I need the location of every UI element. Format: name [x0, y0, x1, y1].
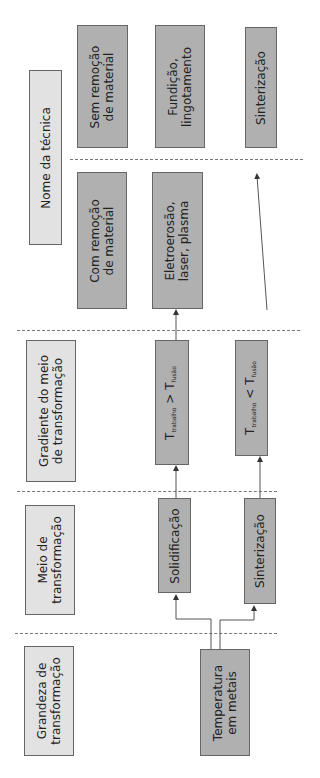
- header-label-line1: Grandeza de: [35, 657, 49, 744]
- t-symbol: T: [243, 428, 257, 435]
- box-sinterizacao-technique: Sinterização: [245, 27, 277, 148]
- box-com-remocao: Com remoçãode material: [77, 172, 127, 309]
- box-label-line2: laser, plasma: [178, 200, 192, 280]
- box-label-line2: de material: [102, 199, 116, 283]
- box-label-line2: de material: [103, 45, 117, 128]
- t-symbol: T: [243, 377, 257, 384]
- header-medium: Meio detransformação: [25, 505, 75, 615]
- box-label-line1: Fundição,: [166, 46, 180, 126]
- operator: <: [243, 389, 257, 399]
- header-label-line2: de transformação: [51, 355, 65, 467]
- header-gradient: Gradiente do meiode transformação: [26, 340, 76, 482]
- box-label-line1: Com remoção: [88, 199, 102, 283]
- box-label-line1: Sem remoção: [89, 45, 103, 128]
- box-label-line1: Temperatura: [211, 664, 225, 740]
- box-label: Sinterização: [253, 514, 267, 588]
- header-label-line1: Gradiente do meio: [37, 355, 51, 467]
- box-t-greater: Ttrabalho > Tfusão: [155, 340, 189, 465]
- subscript: trabalho: [250, 402, 257, 427]
- box-label: Sinterização: [254, 51, 268, 125]
- box-label: Solidificação: [168, 508, 182, 583]
- header-label-line2: transformação: [50, 516, 64, 603]
- box-solidificacao: Solidificação: [158, 498, 191, 593]
- header-label-line1: Meio de: [36, 516, 50, 603]
- header-technique-name: Nome da técnica: [29, 70, 62, 245]
- t-symbol: T: [163, 382, 177, 389]
- box-fundicao: Fundição,lingotamento: [155, 25, 205, 148]
- subscript: trabalho: [170, 407, 177, 432]
- box-label-line1: Eletroerosão,: [164, 200, 178, 280]
- header-technique-name-label: Nome da técnica: [39, 107, 53, 209]
- box-sem-remocao: Sem remoçãode material: [77, 25, 128, 148]
- box-eletroerosao: Eletroerosão,laser, plasma: [152, 172, 203, 309]
- header-magnitude: Grandeza detransformação: [24, 646, 74, 756]
- box-label-line2: em metais: [225, 664, 239, 740]
- box-label-line2: lingotamento: [180, 46, 194, 126]
- box-sinterizacao-medium: Sinterização: [244, 498, 276, 604]
- box-temperatura: Temperaturaem metais: [200, 649, 250, 756]
- t-symbol: T: [163, 432, 177, 439]
- box-t-less: Ttrabalho < Tfusão: [235, 340, 268, 456]
- operator: >: [163, 393, 177, 403]
- subscript: fusão: [250, 361, 257, 377]
- subscript: fusão: [170, 366, 177, 382]
- header-label-line2: transformação: [49, 657, 63, 744]
